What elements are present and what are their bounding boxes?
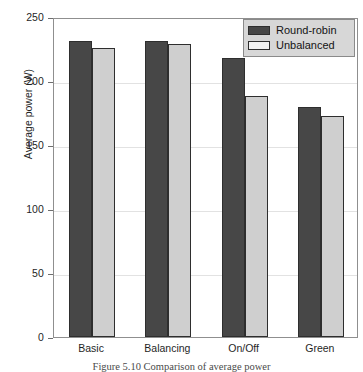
legend-item-1[interactable]: Unbalanced (248, 38, 350, 52)
bar-basic-round-robin (69, 41, 92, 337)
bar-on-off-unbalanced (245, 96, 268, 337)
x-tick-label: On/Off (206, 342, 282, 354)
bar-balancing-unbalanced (168, 44, 191, 337)
y-tick-label: 150 (0, 139, 44, 151)
legend-item-0[interactable]: Round-robin (248, 23, 350, 37)
legend-swatch-icon-unbalanced (248, 41, 270, 50)
legend-label-round-robin: Round-robin (276, 24, 337, 36)
bar-balancing-round-robin (145, 41, 168, 337)
bar-green-unbalanced (321, 116, 344, 337)
x-tick-label: Green (282, 342, 358, 354)
y-tick-label: 0 (0, 331, 44, 343)
legend[interactable]: Round-robin Unbalanced (243, 19, 355, 57)
y-tick-label: 100 (0, 203, 44, 215)
figure-caption: Figure 5.10 Comparison of average power (0, 361, 363, 372)
x-tick-label: Balancing (129, 342, 205, 354)
y-tick-label: 50 (0, 267, 44, 279)
y-tick-label: 200 (0, 75, 44, 87)
legend-label-unbalanced: Unbalanced (276, 39, 335, 51)
bar-basic-unbalanced (92, 48, 115, 337)
y-tick-mark (48, 338, 53, 339)
bar-green-round-robin (298, 107, 321, 337)
plot-area (53, 18, 358, 338)
y-tick-label: 250 (0, 11, 44, 23)
x-tick-label: Basic (53, 342, 129, 354)
bar-on-off-round-robin (222, 58, 245, 337)
y-axis-title: Average power (W) (22, 34, 34, 194)
legend-swatch-icon-round-robin (248, 26, 270, 35)
